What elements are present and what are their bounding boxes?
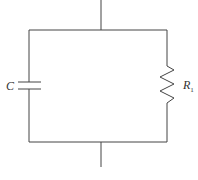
capacitor-label-text: C xyxy=(6,79,14,93)
resistor-label-subscript: 1 xyxy=(190,86,194,94)
capacitor-label: C xyxy=(6,79,14,94)
circuit-diagram xyxy=(0,0,198,180)
resistor-label: R1 xyxy=(183,78,194,94)
resistor-zigzag xyxy=(160,66,174,103)
